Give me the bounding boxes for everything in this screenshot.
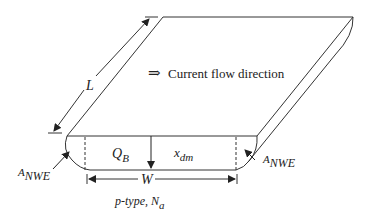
length-dimension [48, 17, 158, 133]
edge-label-right: ANWE [262, 153, 296, 170]
edge-label-left: ANWE [17, 166, 51, 183]
flow-direction-label: Current flow direction [168, 66, 285, 81]
dashed-edges [85, 137, 236, 170]
depletion-depth-label: xdm [173, 145, 193, 163]
channel-diagram: L ⇒ Current flow direction QB xdm W ANWE… [0, 0, 371, 219]
flow-arrow-icon: ⇒ [148, 65, 161, 81]
width-dimension [87, 174, 237, 184]
charge-label: QB [112, 146, 129, 164]
length-label: L [85, 78, 94, 93]
substrate-label: p-type, Na [114, 194, 165, 211]
edge-arrow-left [53, 152, 69, 169]
slab-outline [65, 17, 353, 170]
width-label: W [141, 172, 154, 187]
